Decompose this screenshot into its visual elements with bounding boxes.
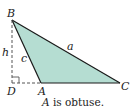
side-label-a: a — [67, 40, 74, 53]
caption-text: is obtuse. — [50, 96, 104, 108]
vertex-label-d: D — [6, 85, 16, 98]
vertex-label-c: C — [121, 80, 130, 93]
side-label-h: h — [2, 46, 9, 59]
triangle-diagram: B h c a D A C A is obtuse. — [0, 0, 134, 109]
side-label-c: c — [21, 52, 27, 65]
caption: A is obtuse. — [41, 96, 104, 108]
right-angle-marker — [12, 77, 19, 83]
vertex-label-b: B — [6, 7, 15, 20]
